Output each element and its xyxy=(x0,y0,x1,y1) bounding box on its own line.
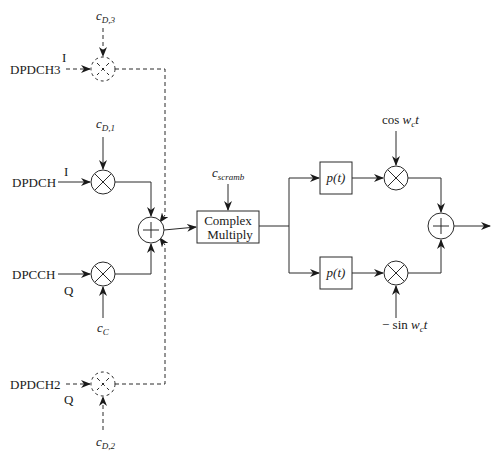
wcdma-uplink-modulator-diagram: DPDCH3 I cD,3 DPDCH I cD,1 DPCCH Q cC xyxy=(0,0,500,464)
dpcch-branch: DPCCH Q cC xyxy=(12,244,151,337)
adder-to-complex-arrow xyxy=(164,227,196,230)
dpdch-to-adder-arrow xyxy=(115,182,151,216)
pulse-shape-bottom-block: p(t) xyxy=(320,257,352,289)
complex-multiply-line1: Complex xyxy=(204,213,252,228)
output-adder-icon xyxy=(428,213,454,239)
dpdch2-multiplier-icon xyxy=(91,372,115,396)
top-mixer-to-adder-arrow xyxy=(408,178,441,212)
dpdch2-to-adder-line xyxy=(115,245,165,384)
dpcch-branch-label: Q xyxy=(64,283,74,298)
complex-multiply-block: Complex Multiply xyxy=(197,211,259,243)
dpcch-multiplier-icon xyxy=(91,262,115,286)
main-adder-icon xyxy=(138,217,164,243)
dpdch-multiplier-icon xyxy=(91,170,115,194)
sin-carrier-label: − sin wct xyxy=(382,317,428,334)
pulse-shape-top-label: p(t) xyxy=(326,170,346,185)
dpdch-label: DPDCH xyxy=(12,175,56,190)
cd1-code-label: cD,1 xyxy=(96,116,115,133)
complex-multiply-line2: Multiply xyxy=(207,227,253,242)
cd3-code-label: cD,3 xyxy=(96,8,116,25)
scramb-code-label: cscramb xyxy=(212,165,245,182)
pulse-shape-top-block: p(t) xyxy=(320,162,352,194)
dpdch3-to-adder-line xyxy=(115,69,165,215)
bottom-mixer-icon xyxy=(384,261,408,285)
dpdch-branch: DPDCH I cD,1 xyxy=(12,116,151,216)
dpcch-to-adder-arrow xyxy=(115,244,151,274)
pulse-shape-bottom-label: p(t) xyxy=(326,265,346,280)
dpdch3-multiplier-icon xyxy=(91,57,115,81)
dpdch2-label: DPDCH2 xyxy=(10,377,61,392)
dpcch-label: DPCCH xyxy=(12,267,55,282)
top-mixer-icon xyxy=(384,166,408,190)
cc-code-label: cC xyxy=(97,320,110,337)
cos-carrier-label: cos wct xyxy=(382,112,419,129)
dpdch3-label: DPDCH3 xyxy=(10,62,61,77)
dpdch2-branch-label: Q xyxy=(64,392,74,407)
bottom-mixer-to-adder-arrow xyxy=(408,240,441,273)
dpdch3-branch-label: I xyxy=(62,50,66,65)
cd2-code-label: cD,2 xyxy=(96,434,116,451)
dpdch-branch-label: I xyxy=(64,164,68,179)
